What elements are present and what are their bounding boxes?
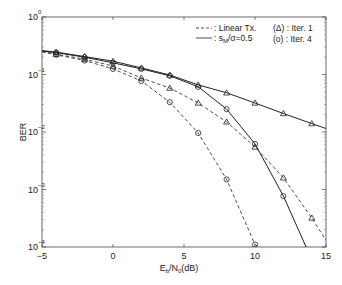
x-tick-label: 0 [110, 251, 115, 261]
legend-label-iter1: (Δ) : Iter. 1 [273, 23, 313, 33]
x-tick-label: 15 [321, 251, 331, 261]
svg-text:0: 0 [38, 9, 42, 15]
y-axis-label: BER [18, 122, 28, 141]
x-tick-label: 5 [181, 251, 186, 261]
data-series [42, 50, 306, 247]
y-tick-label: 10 [28, 185, 38, 195]
legend-label-sm: : sM/σ=0.5 [214, 33, 253, 44]
legend-label-iter4: (o) : Iter. 4 [273, 34, 312, 44]
series-layer [42, 49, 326, 247]
y-tick-label: 10 [28, 70, 38, 80]
data-series [42, 52, 259, 248]
axes: −505101510010−110−210−310−4BEREb/N0(dB) [18, 9, 331, 274]
y-tick-label: 10 [28, 242, 38, 252]
legend: : Linear Tx.: sM/σ=0.5(Δ) : Iter. 1(o) :… [196, 23, 313, 44]
legend-label-linear: : Linear Tx. [214, 23, 256, 33]
ber-chart: −505101510010−110−210−310−4BEREb/N0(dB) … [0, 0, 342, 285]
triangle-marker [309, 215, 315, 220]
x-tick-label: −5 [37, 251, 47, 261]
svg-text:−3: −3 [38, 182, 46, 188]
svg-text:−2: −2 [38, 124, 46, 130]
plot-frame [42, 17, 326, 247]
svg-text:−4: −4 [38, 239, 46, 245]
svg-text:−1: −1 [38, 67, 46, 73]
y-tick-label: 10 [28, 12, 38, 22]
y-tick-label: 10 [28, 127, 38, 137]
x-axis-label: Eb/N0(dB) [160, 263, 199, 274]
x-tick-label: 10 [250, 251, 260, 261]
